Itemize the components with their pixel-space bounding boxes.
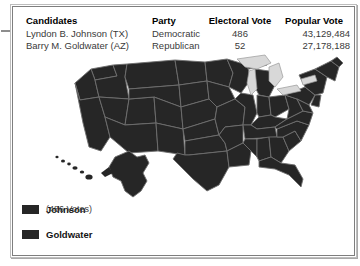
column-header-popular-vote: Popular Vote <box>278 14 350 27</box>
state-hawaii-inset <box>55 156 92 180</box>
legend-item-johnson: Johnson <box>18 203 178 216</box>
column-header-party: Party <box>152 14 176 27</box>
election-results-panel: Candidates Party Electoral Vote Popular … <box>12 6 355 256</box>
map-legend: Johnson (486 Votes) Goldwater <box>18 203 178 241</box>
goldwater-swatch <box>22 230 39 239</box>
state-montana <box>125 60 179 89</box>
us-map-svg <box>13 51 355 211</box>
legend-johnson-votes: (486 Votes) <box>18 216 178 228</box>
johnson-swatch <box>22 205 39 214</box>
legend-label-goldwater: Goldwater <box>46 228 92 241</box>
column-header-candidates: Candidates <box>26 14 77 27</box>
state-alaska-inset <box>109 151 149 197</box>
legend-votes-johnson: (486 Votes) <box>46 203 92 215</box>
lake-huron <box>269 63 283 87</box>
united-states-electoral-map <box>13 51 355 211</box>
table-header-row: Candidates Party Electoral Vote Popular … <box>13 14 354 27</box>
column-header-electoral-vote: Electoral Vote <box>201 14 279 27</box>
legend-item-goldwater: Goldwater <box>18 228 178 241</box>
page-edge-tick-mark <box>1 30 10 32</box>
state-utah <box>125 97 156 125</box>
page-root: Candidates Party Electoral Vote Popular … <box>0 0 360 266</box>
lake-michigan <box>247 69 257 95</box>
state-texas <box>173 151 229 191</box>
